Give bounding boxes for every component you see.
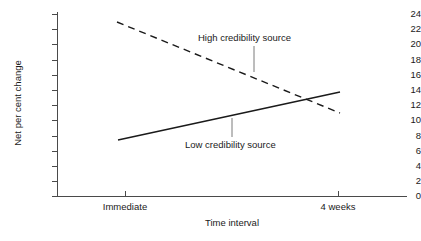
series-line-low-credibility [118, 92, 340, 140]
series-label-high-credibility: High credibility source [198, 32, 291, 43]
series-label-low-credibility: Low credibility source [185, 139, 276, 150]
chart-figure: 24 22 20 18 16 14 12 10 8 6 4 2 0 Immedi… [0, 0, 421, 241]
